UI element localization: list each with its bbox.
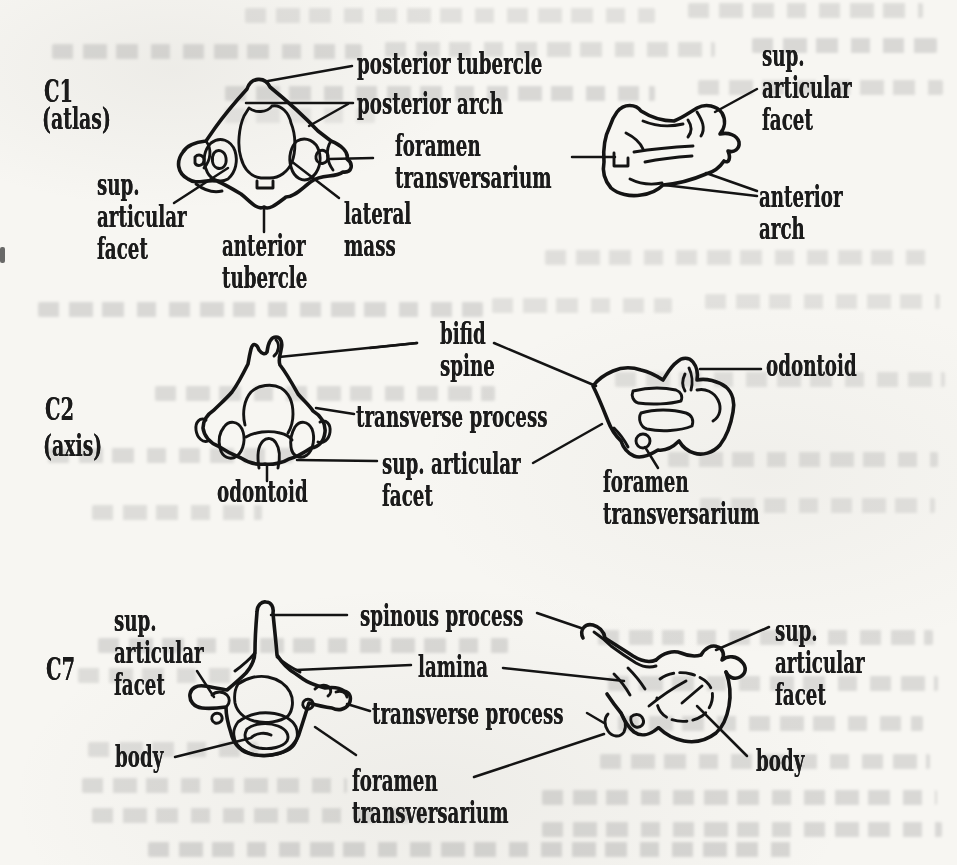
- label-c1-foramen-transversarium: foramen transversarium: [395, 130, 552, 194]
- label-c1-anterior-tubercle: anterior tubercle: [222, 230, 307, 294]
- scanned-page: C1 (atlas) C2 (axis) C7 posterior tuberc…: [0, 0, 957, 865]
- label-c1-sup-articular-facet: sup. articular facet: [97, 169, 187, 265]
- section-sublabel-atlas: (atlas): [42, 103, 111, 135]
- label-c1-lateral-mass: lateral mass: [344, 198, 411, 262]
- label-c1-posterior-tubercle: posterior tubercle: [357, 48, 542, 80]
- label-c7-sup-articular-facet: sup. articular facet: [114, 605, 204, 701]
- label-c7-transverse-process: transverse process: [372, 698, 564, 730]
- c7-superior-view-drawing: [190, 602, 351, 756]
- c1-lateral-view-drawing: [603, 106, 739, 196]
- label-c2-odontoid-right: odontoid: [766, 350, 857, 382]
- label-c2-sup-articular-facet: sup. articular facet: [382, 448, 521, 512]
- label-c1-anterior-arch: anterior arch: [759, 181, 843, 245]
- label-c7-body-right: body: [756, 745, 804, 777]
- label-c7-spinous-process: spinous process: [360, 600, 523, 632]
- c2-posterior-view-drawing: [196, 337, 330, 468]
- label-c2-odontoid-left: odontoid: [217, 476, 308, 508]
- label-c7-foramen-transversarium: foramen transversarium: [352, 765, 509, 829]
- label-c2-bifid-spine: bifid spine: [440, 318, 495, 382]
- c7-lateral-view-drawing: [582, 625, 745, 742]
- section-label-c2: C2: [45, 393, 74, 426]
- section-sublabel-axis: (axis): [43, 430, 102, 462]
- label-c2-foramen-transversarium: foramen transversarium: [603, 466, 760, 530]
- label-c7-body-left: body: [115, 741, 163, 773]
- section-label-c7: C7: [46, 653, 75, 686]
- label-c1-posterior-arch: posterior arch: [357, 88, 503, 120]
- label-c7-sup-articular-facet-lat: sup. articular facet: [775, 615, 890, 711]
- label-c1-sup-articular-facet-lat: sup. articular facet: [762, 40, 852, 136]
- label-c7-lamina: lamina: [418, 651, 488, 683]
- c2-lateral-view-drawing: [593, 358, 734, 457]
- label-c2-transverse-process: transverse process: [356, 401, 548, 433]
